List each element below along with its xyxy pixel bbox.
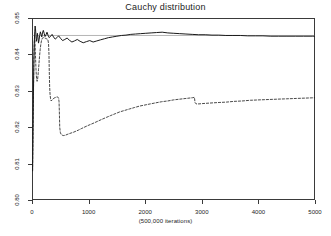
x-tick-label: 3000 — [195, 209, 208, 215]
y-tick-mark — [28, 127, 32, 128]
y-tick-label: 0.80 — [6, 196, 28, 204]
y-tick-label-text: 0.83 — [13, 85, 21, 97]
x-tick-label: 0 — [30, 209, 33, 215]
y-tick-label: 0.81 — [6, 160, 28, 168]
x-tick-mark — [315, 200, 316, 204]
series-dashed-trace — [33, 35, 315, 170]
plot-region: 0.800.810.820.830.840.85 010002000300040… — [32, 18, 315, 200]
x-tick-mark — [202, 200, 203, 204]
x-tick-label: 1000 — [82, 209, 95, 215]
y-tick-label-text: 0.85 — [13, 12, 21, 24]
x-tick-mark — [258, 200, 259, 204]
y-tick-label-text: 0.84 — [13, 49, 21, 61]
y-tick-label: 0.84 — [6, 50, 28, 58]
y-tick-mark — [28, 54, 32, 55]
chart-title: Cauchy distribution — [0, 2, 331, 12]
y-tick-label-text: 0.81 — [13, 158, 21, 170]
y-tick-mark — [28, 91, 32, 92]
x-axis-caption: (500,000 iterations) — [0, 218, 331, 224]
chart-screenshot: Cauchy distribution 0.800.810.820.830.84… — [0, 0, 331, 236]
y-tick-mark — [28, 18, 32, 19]
x-tick-label: 2000 — [139, 209, 152, 215]
x-tick-mark — [145, 200, 146, 204]
series-solid-trace — [33, 26, 315, 170]
y-tick-label: 0.82 — [6, 123, 28, 131]
y-tick-mark — [28, 164, 32, 165]
y-tick-label-text: 0.80 — [13, 194, 21, 206]
plot-canvas — [32, 18, 315, 200]
y-tick-label: 0.85 — [6, 14, 28, 22]
x-tick-mark — [32, 200, 33, 204]
x-tick-label: 4000 — [252, 209, 265, 215]
y-tick-label-text: 0.82 — [13, 121, 21, 133]
x-tick-label: 5000 — [308, 209, 321, 215]
y-tick-label: 0.83 — [6, 87, 28, 95]
x-tick-mark — [89, 200, 90, 204]
series-layer — [32, 26, 315, 171]
